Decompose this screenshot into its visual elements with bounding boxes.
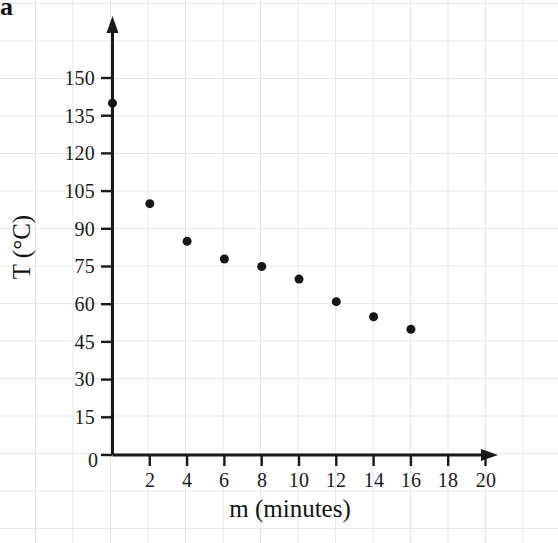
- x-axis-label: m (minutes): [160, 495, 420, 523]
- x-tick-label-12: 12: [316, 470, 356, 490]
- y-tick-label-30: 30: [35, 369, 95, 389]
- data-point: [108, 99, 117, 108]
- y-tick-label-75: 75: [35, 256, 95, 276]
- y-tick-label-135: 135: [35, 106, 95, 126]
- data-point-group: [108, 99, 415, 334]
- x-tick-label-20: 20: [466, 470, 506, 490]
- y-axis-ticks: [101, 78, 112, 455]
- x-tick-label-16: 16: [391, 470, 431, 490]
- x-tick-label-6: 6: [204, 470, 244, 490]
- data-point: [257, 262, 266, 271]
- x-tick-label-8: 8: [242, 470, 282, 490]
- data-point: [406, 325, 415, 334]
- origin-label: 0: [88, 450, 98, 470]
- x-tick-label-14: 14: [354, 470, 394, 490]
- y-axis-arrowhead: [107, 16, 119, 33]
- x-axis-arrowhead: [481, 449, 498, 461]
- y-tick-label-105: 105: [35, 181, 95, 201]
- y-tick-label-60: 60: [35, 294, 95, 314]
- scatter-plot-figure: a: [0, 0, 558, 543]
- data-point: [369, 312, 378, 321]
- y-tick-label-90: 90: [35, 219, 95, 239]
- y-tick-label-15: 15: [35, 407, 95, 427]
- y-tick-label-120: 120: [35, 143, 95, 163]
- data-point: [183, 237, 192, 246]
- y-tick-label-45: 45: [35, 332, 95, 352]
- x-tick-label-2: 2: [130, 470, 170, 490]
- data-point: [332, 297, 341, 306]
- x-tick-label-10: 10: [279, 470, 319, 490]
- data-point: [220, 254, 229, 263]
- axis-lines: [107, 16, 499, 461]
- y-axis-label: T (°C): [8, 177, 36, 317]
- data-point: [295, 275, 304, 284]
- y-tick-label-150: 150: [35, 68, 95, 88]
- x-tick-label-4: 4: [167, 470, 207, 490]
- x-tick-label-18: 18: [428, 470, 468, 490]
- x-axis-ticks: [150, 455, 486, 466]
- plot-area: 150 135 120 105 90 75 60 45 30 15 0 2 4 …: [0, 0, 558, 543]
- data-point: [145, 199, 154, 208]
